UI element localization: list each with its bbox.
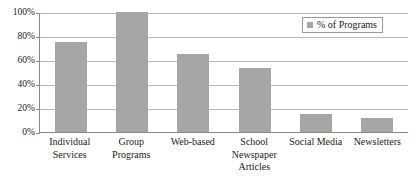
bar[interactable] bbox=[239, 68, 271, 132]
x-axis-label-line: Newsletters bbox=[348, 136, 408, 149]
bar[interactable] bbox=[361, 118, 393, 132]
x-axis-label-line: Group bbox=[102, 136, 162, 149]
bar-slot bbox=[101, 13, 162, 132]
x-axis-label-line: Articles bbox=[225, 161, 285, 174]
bar[interactable] bbox=[300, 114, 332, 132]
x-axis-label: Web-based bbox=[162, 136, 224, 174]
y-axis-tick-label: 60% bbox=[18, 56, 35, 66]
legend: % of Programs bbox=[302, 17, 383, 33]
bar-slot bbox=[224, 13, 285, 132]
x-axis-label: IndividualServices bbox=[39, 136, 101, 174]
x-axis-label-line: School bbox=[225, 136, 285, 149]
y-axis-tick-label: 100% bbox=[13, 8, 35, 18]
y-axis-tickmark bbox=[36, 133, 40, 134]
x-axis-label-line: Programs bbox=[102, 149, 162, 162]
x-axis-label-line: Services bbox=[40, 149, 100, 162]
x-axis-label: SchoolNewspaperArticles bbox=[224, 136, 286, 174]
bar-chart: 100%80%60%40%20%0% IndividualServicesGro… bbox=[0, 0, 412, 193]
x-axis-label: Newsletters bbox=[347, 136, 409, 174]
y-axis-tick-label: 80% bbox=[18, 32, 35, 42]
x-axis-label-line: Social Media bbox=[286, 136, 346, 149]
y-axis-tick-label: 20% bbox=[18, 104, 35, 114]
y-axis-tick-label: 40% bbox=[18, 80, 35, 90]
legend-swatch-icon bbox=[307, 22, 313, 28]
bar-slot bbox=[40, 13, 101, 132]
x-axis-label-line: Web-based bbox=[163, 136, 223, 149]
x-axis-label: GroupPrograms bbox=[101, 136, 163, 174]
x-axis-label-line: Newspaper bbox=[225, 149, 285, 162]
y-axis: 100%80%60%40%20%0% bbox=[0, 0, 38, 193]
x-axis: IndividualServicesGroupProgramsWeb-based… bbox=[39, 136, 408, 174]
x-axis-label: Social Media bbox=[285, 136, 347, 174]
x-axis-label-line: Individual bbox=[40, 136, 100, 149]
bar[interactable] bbox=[116, 12, 148, 132]
bar[interactable] bbox=[177, 54, 209, 132]
legend-label: % of Programs bbox=[317, 20, 377, 30]
y-axis-tick-label: 0% bbox=[22, 128, 35, 138]
bar-slot bbox=[163, 13, 224, 132]
bar[interactable] bbox=[55, 42, 87, 132]
